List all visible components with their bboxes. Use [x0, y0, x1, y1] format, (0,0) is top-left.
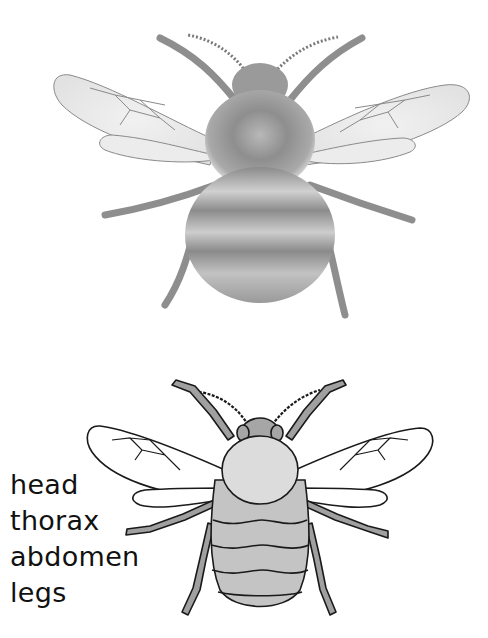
body-part-labels: head thorax abdomen legs	[10, 467, 139, 611]
thorax-outline	[222, 436, 298, 504]
label-legs: legs	[10, 575, 139, 611]
right-wing-outline	[295, 428, 433, 507]
label-thorax: thorax	[10, 503, 139, 539]
bee-diagram: head thorax abdomen legs	[0, 0, 488, 638]
label-abdomen: abdomen	[10, 539, 139, 575]
label-head: head	[10, 467, 139, 503]
